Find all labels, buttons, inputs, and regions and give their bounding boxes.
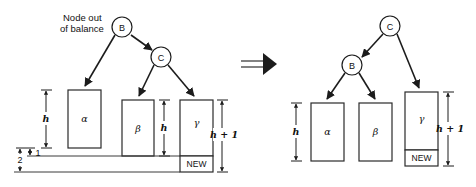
left-node-C-label: C: [158, 53, 165, 63]
left-dim-alpha-height-label: h: [43, 113, 50, 124]
left-dim-offset-two-label: 2: [17, 155, 22, 165]
left-node-C: C: [151, 47, 171, 67]
right-subtree-gamma-label: γ: [419, 113, 425, 124]
node-out-of-balance-label-line2: of balance: [60, 23, 104, 34]
left-dim-beta-height-label: h: [161, 122, 168, 133]
right-new-box: NEW: [405, 150, 438, 166]
left-new-box-label: NEW: [187, 159, 207, 169]
left-subtree-beta: β: [122, 100, 154, 156]
right-subtree-alpha: α: [311, 103, 344, 161]
right-new-box-label: NEW: [412, 153, 432, 163]
left-dim-gamma-height-label: h + 1: [210, 129, 238, 140]
right-subtree-beta-label: β: [372, 126, 379, 137]
node-out-of-balance-label-line1: Node out: [63, 12, 102, 23]
left-new-box: NEW: [180, 156, 213, 172]
right-node-C-label: C: [387, 22, 394, 32]
left-subtree-gamma: γ: [180, 100, 213, 156]
left-dim-offset-one-label: 1: [35, 148, 40, 158]
left-subtree-alpha-label: α: [81, 113, 88, 124]
right-dim-gamma-height-label: h + 1: [436, 123, 464, 134]
right-subtree-beta: β: [359, 103, 392, 161]
right-dim-alpha-height-label: h: [293, 126, 300, 137]
avl-rotation-diagram: Node out of balance B C α β γ: [0, 0, 476, 187]
left-node-B: B: [112, 17, 132, 37]
right-subtree-gamma: γ: [405, 92, 438, 150]
right-node-B-label: B: [349, 61, 355, 71]
left-subtree-alpha: α: [68, 90, 101, 148]
left-subtree-beta-label: β: [134, 123, 141, 134]
right-node-B: B: [342, 55, 362, 75]
right-subtree-alpha-label: α: [324, 126, 331, 137]
right-node-C: C: [380, 16, 400, 36]
left-subtree-gamma-label: γ: [194, 117, 200, 128]
left-node-B-label: B: [119, 23, 125, 33]
